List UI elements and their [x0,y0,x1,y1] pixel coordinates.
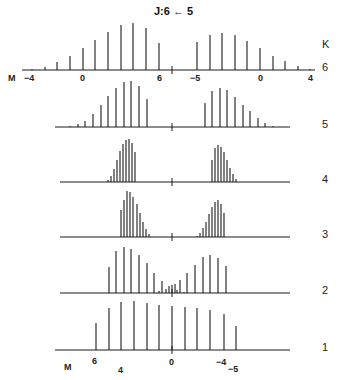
m-tick-label: 6 [157,73,162,83]
m-tick-label: M [8,73,16,83]
m-tick-label: 0 [80,73,85,83]
spectrum-diagram [0,0,347,380]
m-tick-label: 0 [169,357,174,367]
m-tick-label: 0 [258,73,263,83]
k-value-label: 4 [322,173,328,185]
k-value-label: 2 [322,284,328,296]
k-value-label: 6 [322,61,328,73]
diagram-title: J:6 ← 5 [154,5,193,17]
m-tick-label: 4 [308,73,313,83]
k-value-label: 5 [322,118,328,130]
m-tick-label: −4 [24,73,34,83]
k-value-label: 1 [322,341,328,353]
m-tick-label: M [64,362,72,372]
m-tick-label: 4 [118,365,123,375]
m-tick-label: 6 [92,356,97,366]
k-value-label: 3 [322,228,328,240]
m-tick-label: −5 [190,73,200,83]
k-axis-label: K [322,38,329,50]
m-tick-label: −5 [228,364,238,374]
m-tick-label: −4 [216,357,226,367]
